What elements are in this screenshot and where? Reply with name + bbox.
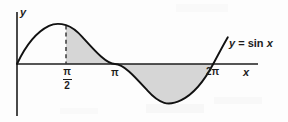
sine-curve-figure: y x π 2 π 2π y = sin x [0,0,288,122]
x-axis-label: x [243,67,249,78]
shaded-region-trough [115,64,213,103]
y-axis-label: y [20,7,26,18]
tick-label-pi: π [111,68,119,78]
fraction-denominator: 2 [58,81,76,92]
equation-argument: x [267,37,273,49]
equation-operator: = sin [235,37,267,49]
fraction-numerator: π [58,67,76,78]
curve-equation-label: y = sin x [229,38,273,49]
tick-label-two-pi: 2π [206,67,219,77]
plot-canvas [0,0,288,122]
tick-label-pi-over-2: π 2 [58,67,76,91]
